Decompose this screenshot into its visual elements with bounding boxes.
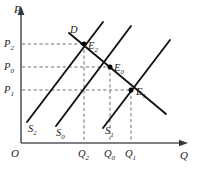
origin-label: O bbox=[11, 147, 19, 159]
tick-label-p1: P1 bbox=[3, 84, 14, 98]
equilibrium-dot-e0[interactable] bbox=[108, 65, 113, 70]
equilibrium-labels: E2 E0 E1 bbox=[87, 40, 146, 100]
equilibrium-dot-e2[interactable] bbox=[82, 42, 87, 47]
curves-group bbox=[27, 22, 170, 128]
curve-labels: S2 S0 S1 D bbox=[28, 24, 114, 141]
tick-label-q1: Q1 bbox=[125, 148, 136, 162]
supply-curve-s1[interactable] bbox=[103, 40, 170, 128]
equilibrium-label-e1: E1 bbox=[135, 86, 146, 100]
equilibrium-label-e2: E2 bbox=[87, 40, 98, 54]
curve-label-s1: S1 bbox=[105, 125, 114, 139]
supply-demand-figure: P Q O P2 P0 P1 Q2 Q0 Q1 bbox=[0, 0, 200, 169]
tick-label-q0: Q0 bbox=[104, 148, 116, 162]
chart-canvas: P Q O P2 P0 P1 Q2 Q0 Q1 bbox=[0, 0, 200, 169]
equilibrium-dot-e1[interactable] bbox=[129, 88, 134, 93]
tick-label-q2: Q2 bbox=[78, 148, 90, 162]
supply-curve-s2[interactable] bbox=[27, 22, 103, 122]
guide-lines-group bbox=[22, 44, 131, 142]
quantity-axis-label: Q bbox=[180, 149, 188, 161]
tick-label-p0: P0 bbox=[3, 61, 14, 75]
price-axis-label: P bbox=[13, 3, 21, 15]
curve-label-d: D bbox=[69, 24, 78, 35]
quantity-tick-labels: Q2 Q0 Q1 bbox=[78, 148, 136, 162]
curve-label-s2: S2 bbox=[28, 123, 37, 137]
quantity-axis-arrowhead bbox=[179, 140, 188, 147]
price-tick-labels: P2 P0 P1 bbox=[3, 38, 14, 98]
axes-group bbox=[18, 6, 188, 146]
tick-label-p2: P2 bbox=[3, 38, 14, 52]
curve-label-s0: S0 bbox=[56, 127, 65, 141]
